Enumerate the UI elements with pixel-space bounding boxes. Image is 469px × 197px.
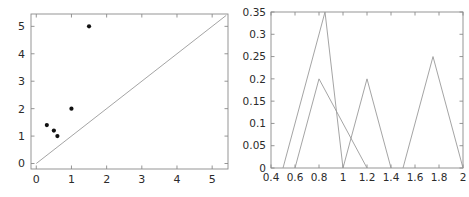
x-tick-label: 1.2	[359, 171, 376, 183]
data-point-marker	[69, 107, 73, 111]
data-point-marker	[52, 128, 56, 132]
membership-plot-panel: 0.40.60.811.21.41.61.8200.050.10.150.20.…	[235, 0, 469, 197]
x-tick-label: 3	[138, 173, 145, 186]
y-tick-label: 5	[18, 20, 25, 33]
data-point-marker	[87, 24, 91, 28]
y-tick-label: 0.2	[249, 73, 266, 85]
x-tick-label: 4	[173, 173, 180, 186]
plot-frame	[271, 12, 463, 168]
x-tick-label: 1.6	[407, 171, 424, 183]
x-tick-label: 1.4	[383, 171, 400, 183]
series-line	[283, 12, 343, 168]
y-tick-label: 0.15	[243, 95, 266, 107]
membership-plot-svg: 0.40.60.811.21.41.61.8200.050.10.150.20.…	[235, 0, 469, 197]
series-line	[295, 79, 367, 168]
x-tick-label: 1	[68, 173, 75, 186]
x-tick-label: 2	[460, 171, 467, 183]
series-line	[343, 79, 391, 168]
series-line	[403, 57, 463, 168]
x-tick-label: 0	[33, 173, 40, 186]
y-tick-label: 0	[18, 157, 25, 170]
series-line	[36, 15, 226, 163]
y-tick-label: 0.05	[243, 139, 266, 151]
y-tick-label: 0.1	[249, 117, 266, 129]
y-tick-label: 0.35	[243, 6, 266, 18]
scatter-plot-panel: 012345012345	[0, 0, 235, 197]
y-tick-label: 1	[18, 130, 25, 143]
y-tick-label: 0.25	[243, 50, 266, 62]
y-tick-label: 3	[18, 75, 25, 88]
x-tick-label: 0.6	[287, 171, 304, 183]
x-tick-label: 1	[340, 171, 347, 183]
x-tick-label: 0.8	[311, 171, 328, 183]
y-tick-label: 0.3	[249, 28, 266, 40]
x-tick-label: 2	[103, 173, 110, 186]
data-point-marker	[45, 123, 49, 127]
y-tick-label: 0	[259, 162, 266, 174]
scatter-plot-svg: 012345012345	[0, 0, 235, 197]
x-tick-label: 5	[209, 173, 216, 186]
data-point-marker	[55, 134, 59, 138]
figure-root: 012345012345 0.40.60.811.21.41.61.8200.0…	[0, 0, 469, 197]
x-tick-label: 1.8	[431, 171, 448, 183]
y-tick-label: 4	[18, 48, 25, 61]
y-tick-label: 2	[18, 103, 25, 116]
